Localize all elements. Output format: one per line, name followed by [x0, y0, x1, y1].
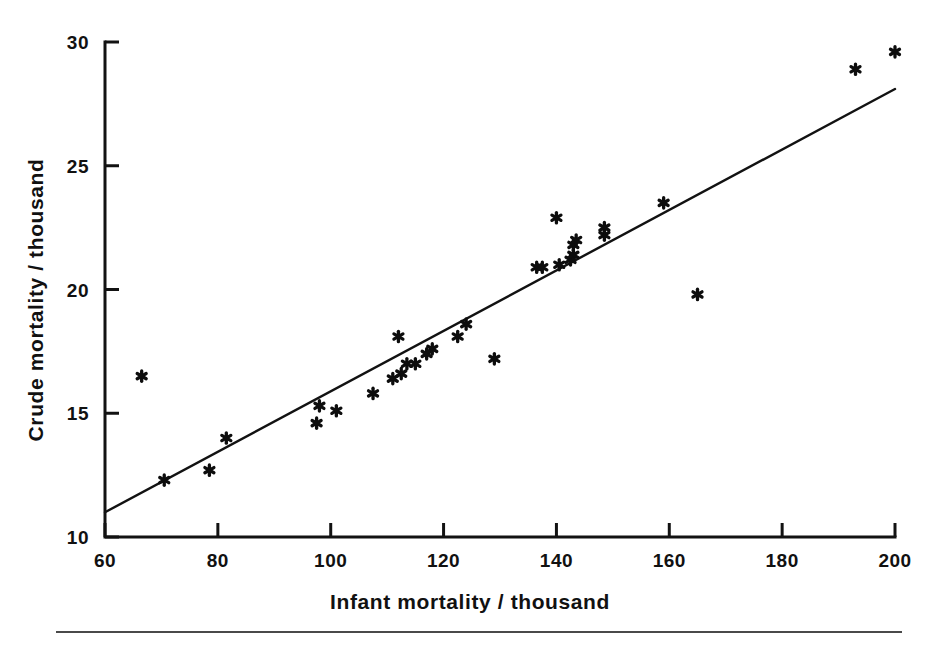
data-point-marker [572, 235, 581, 245]
data-point-marker [891, 47, 900, 57]
data-point-marker [600, 222, 609, 232]
regression-line [105, 89, 895, 512]
chart-figure: 10152025306080100120140160180200 Infant … [0, 0, 940, 651]
axes [105, 42, 895, 537]
data-point-marker [222, 433, 231, 443]
x-tick-label: 120 [427, 550, 460, 571]
data-point-marker [490, 354, 499, 364]
y-tick-label: 10 [67, 527, 89, 548]
fit-line [105, 89, 895, 512]
data-point-marker [462, 319, 471, 329]
data-point-marker [851, 64, 860, 74]
x-tick-label: 140 [540, 550, 573, 571]
data-point-marker [312, 418, 321, 428]
data-point-marker [453, 331, 462, 341]
y-tick-label: 25 [67, 156, 89, 177]
y-tick-label: 30 [67, 32, 89, 53]
data-point-marker [397, 368, 406, 378]
y-axis-title: Crude mortality / thousand [24, 159, 47, 442]
data-point-marker [693, 289, 702, 299]
x-tick-label: 180 [766, 550, 799, 571]
axis-ticks [105, 42, 895, 537]
x-tick-label: 60 [94, 550, 116, 571]
data-point-marker [205, 465, 214, 475]
data-points [137, 47, 899, 486]
y-tick-label: 15 [67, 403, 89, 424]
data-point-marker [659, 198, 668, 208]
data-point-marker [555, 260, 564, 270]
data-point-marker [137, 371, 146, 381]
x-tick-label: 200 [878, 550, 911, 571]
data-point-marker [315, 401, 324, 411]
data-point-marker [394, 331, 403, 341]
data-point-marker [160, 475, 169, 485]
data-point-marker [538, 262, 547, 272]
data-point-marker [332, 406, 341, 416]
x-tick-label: 160 [653, 550, 686, 571]
data-point-marker [428, 344, 437, 354]
x-tick-label: 80 [207, 550, 229, 571]
data-point-marker [411, 359, 420, 369]
data-point-marker [369, 388, 378, 398]
x-axis-title: Infant mortality / thousand [330, 590, 610, 613]
x-tick-label: 100 [314, 550, 347, 571]
axis-tick-labels: 10152025306080100120140160180200 [67, 32, 912, 571]
axis-spines [105, 42, 895, 537]
scatter-plot: 10152025306080100120140160180200 Infant … [0, 0, 940, 651]
y-tick-label: 20 [67, 280, 89, 301]
data-point-marker [552, 213, 561, 223]
